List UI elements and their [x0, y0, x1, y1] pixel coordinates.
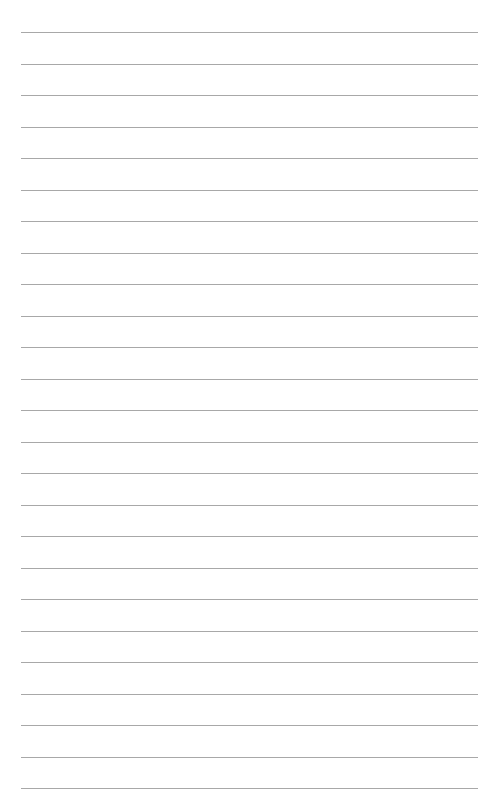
ruled-line — [21, 32, 478, 33]
ruled-line — [21, 410, 478, 411]
ruled-line — [21, 253, 478, 254]
ruled-line — [21, 568, 478, 569]
lined-paper-page — [0, 0, 497, 805]
ruled-line — [21, 505, 478, 506]
ruled-line — [21, 379, 478, 380]
ruled-line — [21, 221, 478, 222]
ruled-line — [21, 599, 478, 600]
ruled-line — [21, 473, 478, 474]
ruled-line — [21, 64, 478, 65]
ruled-line — [21, 316, 478, 317]
ruled-line — [21, 158, 478, 159]
ruled-line — [21, 95, 478, 96]
ruled-line — [21, 347, 478, 348]
ruled-line — [21, 536, 478, 537]
ruled-line — [21, 442, 478, 443]
ruled-line — [21, 725, 478, 726]
ruled-line — [21, 788, 478, 789]
ruled-line — [21, 757, 478, 758]
ruled-line — [21, 662, 478, 663]
ruled-line — [21, 694, 478, 695]
ruled-line — [21, 190, 478, 191]
ruled-line — [21, 127, 478, 128]
ruled-line — [21, 284, 478, 285]
ruled-line — [21, 631, 478, 632]
